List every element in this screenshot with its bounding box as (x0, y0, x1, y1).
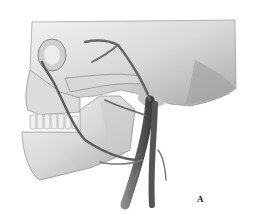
panel-label: A (197, 194, 204, 204)
skull-artery-illustration (0, 0, 255, 215)
skull-rendering-figure: A (0, 0, 255, 215)
internal-carotid (151, 104, 155, 205)
